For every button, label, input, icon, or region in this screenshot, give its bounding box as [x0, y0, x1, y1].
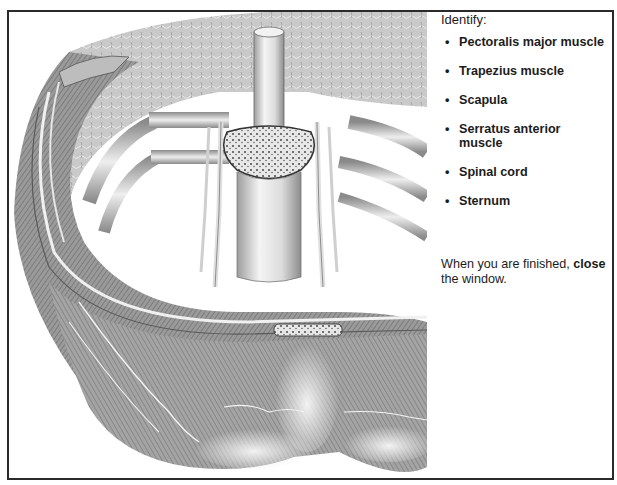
- bullet-icon: •: [445, 194, 449, 208]
- list-item-trapezius: • Trapezius muscle: [441, 64, 616, 78]
- item-label: Sternum: [459, 194, 609, 208]
- item-label: Trapezius muscle: [459, 64, 609, 78]
- identify-heading: Identify:: [441, 12, 616, 28]
- item-label: Pectoralis major muscle: [459, 35, 609, 49]
- instruction-prefix: When you are finished,: [441, 257, 573, 271]
- bullet-icon: •: [445, 122, 449, 136]
- list-item-scapula: • Scapula: [441, 93, 616, 107]
- bullet-icon: •: [445, 35, 449, 49]
- thoracic-cross-section-drawing: [9, 12, 427, 479]
- instruction-emphasis: close: [573, 257, 605, 271]
- list-item-pectoralis-major: • Pectoralis major muscle: [441, 35, 616, 49]
- item-label: Serratus anterior muscle: [459, 122, 579, 150]
- bullet-icon: •: [445, 165, 449, 179]
- item-label: Spinal cord: [459, 165, 609, 179]
- item-label: Scapula: [459, 93, 609, 107]
- list-item-sternum: • Sternum: [441, 194, 616, 208]
- list-item-spinal-cord: • Spinal cord: [441, 165, 616, 179]
- instruction-suffix: the window.: [441, 272, 507, 286]
- list-item-serratus-anterior: • Serratus anterior muscle: [441, 122, 616, 150]
- bullet-icon: •: [445, 93, 449, 107]
- bullet-icon: •: [445, 64, 449, 78]
- close-instruction: When you are finished, close the window.: [441, 257, 613, 287]
- anatomy-illustration: [9, 12, 427, 479]
- identify-panel: Identify: • Pectoralis major muscle • Tr…: [441, 12, 616, 223]
- structure-list: • Pectoralis major muscle • Trapezius mu…: [441, 35, 616, 208]
